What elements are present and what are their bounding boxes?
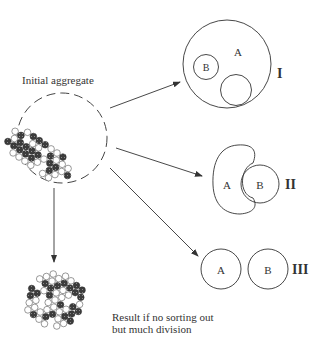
label-b: B — [256, 179, 263, 191]
arrow-to-outcome-1 — [110, 82, 180, 108]
numeral-iii: III — [292, 262, 308, 277]
crescent-a — [213, 145, 255, 214]
numeral-i: I — [277, 66, 282, 81]
diagram-canvas: A B I A B II A B III — [0, 0, 324, 356]
unsorted-result-cluster — [25, 271, 86, 330]
mixed-cell-cluster — [5, 128, 72, 181]
label-a: A — [217, 264, 225, 276]
numeral-ii: II — [285, 177, 296, 192]
outcome-3: A B III — [201, 249, 308, 289]
inner-circle-unlabeled — [221, 75, 252, 106]
outer-circle-a — [183, 20, 271, 108]
outcome-1: A B I — [183, 20, 282, 108]
arrow-to-outcome-3 — [110, 168, 198, 256]
arrow-to-outcome-2 — [116, 148, 202, 176]
label-b: B — [203, 62, 210, 73]
label-a: A — [234, 46, 242, 58]
label-a: A — [223, 179, 231, 191]
outcome-2: A B II — [213, 145, 296, 214]
label-b: B — [264, 264, 271, 276]
initial-aggregate — [5, 93, 107, 183]
